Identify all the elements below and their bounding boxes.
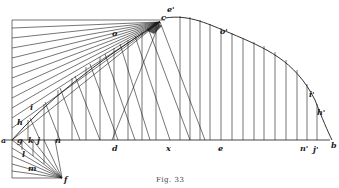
figure-caption: Fig. 33 <box>156 176 184 184</box>
construction-lines <box>6 16 332 178</box>
label-n: n <box>55 135 61 145</box>
label-o-prime: o' <box>220 26 228 36</box>
label-d: d <box>112 143 118 153</box>
label-c: c <box>161 12 166 22</box>
label-b: b <box>331 140 337 150</box>
label-l: l <box>22 149 25 159</box>
label-h-prime: h' <box>317 107 325 117</box>
label-k: k <box>28 135 34 145</box>
label-x: x <box>165 143 171 153</box>
point-labels: a g k j n d x e n' j' b c e' o o' i h l … <box>1 4 337 184</box>
label-n-prime: n' <box>300 143 308 153</box>
label-a: a <box>1 135 6 145</box>
label-o: o <box>112 28 118 38</box>
label-j-prime: j' <box>311 144 318 154</box>
figure-33-diagram: a g k j n d x e n' j' b c e' o o' i h l … <box>0 0 339 188</box>
label-f: f <box>63 174 69 184</box>
label-i: i <box>30 102 33 112</box>
label-e-prime: e' <box>167 4 175 14</box>
label-e: e <box>218 143 223 153</box>
label-g: g <box>17 135 23 145</box>
label-i-prime: i' <box>309 89 315 99</box>
label-h: h <box>17 117 23 127</box>
label-m: m <box>28 163 36 173</box>
